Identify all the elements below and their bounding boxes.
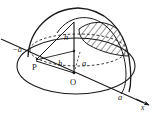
- label-height-upper: h: [64, 33, 68, 42]
- point-p-marker: [36, 58, 38, 60]
- dome-outline-left: [28, 8, 78, 57]
- mid-plane-point: [73, 50, 75, 52]
- figure-canvas: [0, 0, 152, 116]
- angle-leader-dashed: [74, 52, 80, 73]
- origin-point: [73, 72, 76, 75]
- label-height-lower: h: [58, 59, 62, 68]
- label-radius-a: a: [82, 59, 86, 68]
- label-negative-a: −a: [12, 45, 22, 54]
- generator-line-upper: [36, 22, 74, 60]
- hatched-section-icon: [79, 22, 130, 56]
- radius-line-p-to-mid: [36, 51, 74, 60]
- label-positive-a: a: [118, 93, 122, 102]
- label-axis-x: x: [141, 104, 144, 112]
- label-point-p: P: [32, 63, 37, 72]
- label-point-o: O: [70, 78, 76, 87]
- geometry-figure: −a P O h h a a x: [0, 0, 152, 116]
